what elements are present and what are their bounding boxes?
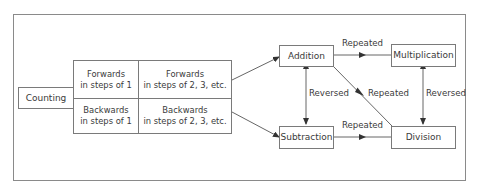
arrow-subtraction-to-division [359,134,366,140]
edge-label-add-sub: Reversed [308,88,350,98]
counting-grid: Forwards in steps of 1 Forwards in steps… [73,60,232,134]
arrow-grid-to-subtraction [232,112,279,137]
grid-cell-backwards-1: Backwards in steps of 1 [74,99,138,133]
grid-cell-forwards-multi: Forwards in steps of 2, 3, etc. [139,61,231,98]
node-counting: Counting [18,87,74,109]
arrow-addition-to-division [355,88,364,97]
node-division: Division [391,126,456,149]
node-multiplication: Multiplication [391,44,456,67]
node-counting-label: Counting [26,93,67,104]
grid-cell-forwards-1: Forwards in steps of 1 [74,61,138,98]
edge-label-sub-div: Repeated [341,120,384,130]
grid-cell-backwards-multi: Backwards in steps of 2, 3, etc. [139,99,231,133]
node-subtraction: Subtraction [279,126,334,149]
edge-label-mult-div: Reversed [425,88,467,98]
arrow-grid-to-addition [232,57,279,80]
node-addition: Addition [279,45,334,67]
edge-label-add-div: Repeated [367,88,410,98]
edge-label-add-mult: Repeated [341,38,384,48]
arrow-addition-to-multiplication [359,52,366,58]
